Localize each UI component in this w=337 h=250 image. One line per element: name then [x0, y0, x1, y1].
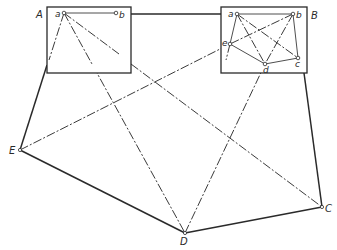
- line-Aa-C: [131, 64, 322, 207]
- label-A-b: b: [119, 10, 125, 20]
- label-B-d: d: [263, 65, 269, 75]
- line-D-Bd: [185, 64, 265, 233]
- label-E: E: [9, 145, 16, 156]
- point-D: [183, 231, 186, 234]
- label-B: B: [311, 10, 318, 21]
- box-A: a b: [47, 7, 131, 73]
- point-B-a: [235, 12, 239, 16]
- label-A: A: [35, 9, 43, 20]
- line-D-C: [185, 207, 322, 233]
- label-B-e: e: [222, 38, 228, 48]
- line-E-D: [20, 150, 185, 233]
- point-B-e: [228, 42, 232, 46]
- label-C: C: [325, 203, 332, 214]
- box-B: a b c d e: [221, 7, 307, 75]
- label-B-c: c: [295, 59, 300, 69]
- line-C-B: [304, 73, 322, 207]
- label-D: D: [180, 236, 188, 247]
- point-A-b: [114, 11, 118, 15]
- point-C: [320, 205, 323, 208]
- label-B-a: a: [228, 9, 234, 19]
- point-A-a: [62, 11, 66, 15]
- label-B-b: b: [296, 10, 302, 20]
- point-E: [18, 148, 21, 151]
- label-A-a: a: [55, 9, 61, 19]
- point-B-b: [291, 12, 295, 16]
- line-A-E: [20, 65, 47, 150]
- network-diagram: a b a b c d e A B C D E: [0, 0, 337, 250]
